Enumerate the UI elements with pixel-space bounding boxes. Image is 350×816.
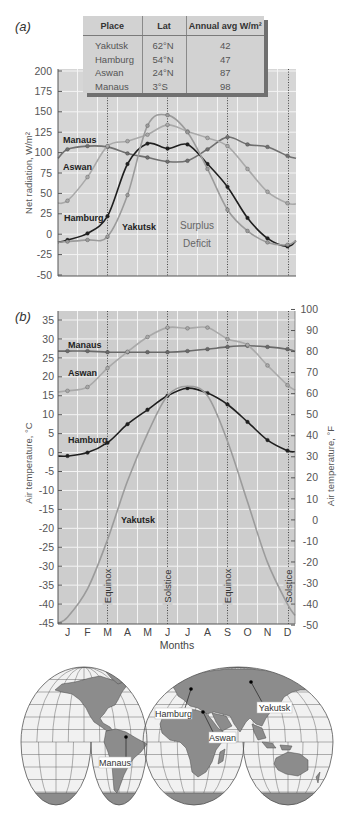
city-label-aswan: Aswan (209, 733, 236, 743)
cell-annual-avg: 87 (186, 66, 264, 79)
data-point (246, 167, 250, 171)
y-axis-title-fahrenheit: Air temperature, °F (325, 426, 336, 507)
table-row: Yakutsk 62°N 42 (83, 36, 264, 53)
data-point (286, 347, 290, 351)
x-axis-title: Months (160, 639, 194, 651)
data-point (146, 335, 150, 339)
y-tick-label: 0 (48, 446, 54, 458)
y-tick-label-right: -50 (303, 619, 318, 631)
city-label-hamburg: Hamburg (155, 709, 192, 719)
data-point (166, 160, 170, 164)
city-dot (249, 680, 253, 684)
data-point (266, 240, 270, 244)
cell-place: Manaus (83, 80, 142, 94)
data-point (146, 350, 150, 354)
y-tick-label: 0 (46, 228, 52, 240)
y-tick-label-right: 60 (306, 387, 318, 399)
month-label: J (65, 626, 70, 638)
series-label-yakutsk: Yakutsk (122, 222, 157, 232)
data-point (286, 449, 290, 453)
data-point (146, 408, 150, 412)
y-tick-label: -5 (45, 465, 54, 477)
y-tick-label: -10 (39, 484, 54, 496)
panel-b-label: (b) (15, 309, 31, 324)
y-axis-title-celsius: Air temperature, °C (23, 422, 34, 504)
series-label-manaus: Manaus (63, 135, 97, 145)
month-label: N (264, 626, 272, 638)
data-point (86, 451, 90, 455)
season-label-solstice: Solstice (162, 569, 173, 602)
month-label: D (284, 626, 292, 638)
data-point (246, 216, 250, 220)
data-point (266, 345, 270, 349)
cell-lat: 62°N (142, 36, 186, 53)
y-tick-label-right: 40 (306, 429, 318, 441)
data-point (266, 438, 270, 442)
data-point (226, 135, 230, 139)
data-point (246, 420, 250, 424)
data-point (166, 350, 170, 354)
series-label-hamburg: Hamburg (64, 213, 104, 223)
data-point (206, 347, 210, 351)
y-tick-label: -35 (39, 579, 54, 591)
city-dot (124, 735, 128, 739)
data-point (86, 175, 90, 179)
y-tick-label-right: -10 (303, 535, 318, 547)
y-tick-label: 20 (42, 370, 54, 382)
data-point (66, 147, 70, 151)
y-tick-label: -50 (37, 269, 52, 281)
data-point (226, 403, 230, 407)
cell-annual-avg: 42 (186, 36, 264, 53)
y-tick-label: -30 (39, 560, 54, 572)
month-label: A (204, 626, 211, 638)
month-label: S (224, 626, 231, 638)
data-point (226, 208, 230, 212)
data-point (66, 454, 70, 458)
month-label: F (84, 626, 90, 638)
y-tick-label-right: 100 (300, 303, 318, 315)
y-tick-label-right: -30 (303, 577, 318, 589)
header-lat: Lat (142, 16, 186, 36)
y-tick-label: 35 (42, 314, 54, 326)
data-point (266, 364, 270, 368)
data-point (286, 243, 290, 247)
data-point (86, 238, 90, 242)
y-tick-label: -40 (39, 598, 54, 610)
season-label-equinox: Equinox (102, 569, 113, 604)
header-annual-avg: Annual avg W/m² (186, 16, 264, 36)
data-point (266, 145, 270, 149)
figure: (a) 2001751501251007550250-25-50 Net rad… (0, 0, 350, 816)
y-tick-label-right: 10 (306, 493, 318, 505)
data-point (246, 343, 250, 347)
series-label-yakutsk: Yakutsk (121, 515, 156, 525)
data-point (86, 385, 90, 389)
y-tick-label-right: -20 (303, 556, 318, 568)
y-tick-label: 200 (34, 65, 52, 77)
y-tick-label: 30 (42, 333, 54, 345)
data-point (126, 162, 130, 166)
y-tick-label-right: 0 (312, 514, 318, 526)
data-point (106, 350, 110, 354)
data-point (286, 154, 290, 158)
y-tick-label-right: -40 (303, 598, 318, 610)
y-tick-label: 150 (34, 105, 52, 117)
data-point (86, 231, 90, 235)
cell-annual-avg: 47 (186, 53, 264, 66)
data-point (146, 124, 150, 128)
table-row: Manaus 3°S 98 (83, 80, 264, 94)
data-point (226, 345, 230, 349)
data-point (66, 199, 70, 203)
table-row: Aswan 24°N 87 (83, 66, 264, 79)
data-point (206, 167, 210, 171)
data-point (166, 123, 170, 127)
series-label-manaus: Manaus (68, 340, 102, 350)
data-point (126, 152, 130, 156)
cell-place: Yakutsk (83, 36, 142, 53)
data-point (246, 143, 250, 147)
y-tick-label-right: 70 (306, 366, 318, 378)
data-point (106, 366, 110, 370)
y-tick-label: 175 (34, 85, 52, 97)
data-point (66, 389, 70, 393)
month-label: J (165, 626, 170, 638)
cell-place: Aswan (83, 66, 142, 79)
